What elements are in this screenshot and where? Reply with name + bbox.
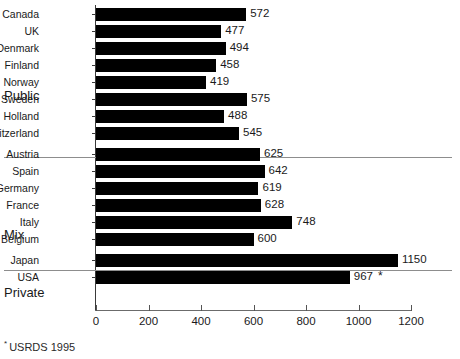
category-label-japan: Japan bbox=[0, 252, 43, 269]
bar-switzerland bbox=[96, 127, 239, 140]
bar-row: Holland488 bbox=[96, 108, 411, 125]
bar-row: Germany619 bbox=[96, 180, 411, 197]
bar-value-germany: 619 bbox=[258, 179, 281, 196]
x-tick-label-1000: 1000 bbox=[346, 315, 372, 328]
x-tick-mark bbox=[96, 305, 97, 311]
bar-annotation-marker: * bbox=[373, 269, 383, 283]
bar-finland bbox=[96, 59, 216, 72]
bar-canada bbox=[96, 8, 246, 21]
category-label-canada: Canada bbox=[0, 6, 43, 23]
bar-row: Sweden575 bbox=[96, 91, 411, 108]
bar-row: Switzerland545 bbox=[96, 125, 411, 142]
x-tick-label-400: 400 bbox=[191, 315, 210, 328]
bar-denmark bbox=[96, 42, 226, 55]
bar-row: Canada572 bbox=[96, 6, 411, 23]
group-label-private: Private bbox=[4, 286, 78, 300]
bar-value-holland: 488 bbox=[224, 107, 247, 124]
category-label-france: France bbox=[0, 197, 43, 214]
bar-row: USA967* bbox=[96, 269, 411, 286]
bar-row: Denmark494 bbox=[96, 40, 411, 57]
bar-uk bbox=[96, 25, 221, 38]
bar-value-canada: 572 bbox=[246, 5, 269, 22]
bar-value-denmark: 494 bbox=[226, 39, 249, 56]
x-tick-mark bbox=[149, 305, 150, 311]
category-label-austria: Austria bbox=[0, 146, 43, 163]
x-tick-mark bbox=[359, 305, 360, 311]
bar-value-japan: 1150 bbox=[398, 251, 427, 268]
bar-row: Austria625 bbox=[96, 146, 411, 163]
bar-row: UK477 bbox=[96, 23, 411, 40]
bar-value-france: 628 bbox=[261, 196, 284, 213]
category-label-norway: Norway bbox=[0, 74, 43, 91]
bar-row: Finland458 bbox=[96, 57, 411, 74]
bar-row: Spain642 bbox=[96, 163, 411, 180]
bar-france bbox=[96, 199, 261, 212]
bar-usa bbox=[96, 271, 350, 284]
category-label-denmark: Denmark bbox=[0, 40, 43, 57]
bar-chart: Public Mix Private Canada572UK477Denmark… bbox=[0, 0, 460, 359]
x-tick-label-0: 0 bbox=[93, 315, 99, 328]
bar-row: Norway419 bbox=[96, 74, 411, 91]
category-label-spain: Spain bbox=[0, 163, 43, 180]
bar-italy bbox=[96, 216, 292, 229]
bar-value-spain: 642 bbox=[265, 162, 288, 179]
bar-austria bbox=[96, 148, 260, 161]
bar-holland bbox=[96, 110, 224, 123]
x-tick-label-800: 800 bbox=[296, 315, 315, 328]
bar-value-finland: 458 bbox=[216, 56, 239, 73]
bar-sweden bbox=[96, 93, 247, 106]
bar-value-uk: 477 bbox=[221, 22, 244, 39]
category-label-sweden: Sweden bbox=[0, 91, 43, 108]
bar-belgium bbox=[96, 233, 254, 246]
bar-value-italy: 748 bbox=[292, 213, 315, 230]
category-label-switzerland: Switzerland bbox=[0, 125, 43, 142]
category-label-finland: Finland bbox=[0, 57, 43, 74]
bar-spain bbox=[96, 165, 265, 178]
footnote: *USRDS 1995 bbox=[4, 337, 75, 354]
bar-row: Japan1150 bbox=[96, 252, 411, 269]
bar-germany bbox=[96, 182, 258, 195]
plot-area: Canada572UK477Denmark494Finland458Norway… bbox=[96, 6, 411, 309]
x-tick-mark bbox=[254, 305, 255, 311]
bar-value-usa: 967* bbox=[350, 268, 383, 285]
category-label-italy: Italy bbox=[0, 214, 43, 231]
footnote-text: USRDS 1995 bbox=[9, 341, 75, 353]
x-tick-mark bbox=[201, 305, 202, 311]
category-label-germany: Germany bbox=[0, 180, 43, 197]
bar-row: France628 bbox=[96, 197, 411, 214]
bar-value-belgium: 600 bbox=[254, 230, 277, 247]
x-tick-label-1200: 1200 bbox=[398, 315, 424, 328]
bar-value-sweden: 575 bbox=[247, 90, 270, 107]
bar-value-austria: 625 bbox=[260, 145, 283, 162]
bar-norway bbox=[96, 76, 206, 89]
bar-japan bbox=[96, 254, 398, 267]
x-tick-label-600: 600 bbox=[244, 315, 263, 328]
x-tick-label-200: 200 bbox=[139, 315, 158, 328]
category-label-usa: USA bbox=[0, 269, 43, 286]
bar-row: Belgium600 bbox=[96, 231, 411, 248]
x-tick-mark bbox=[306, 305, 307, 311]
category-label-holland: Holland bbox=[0, 108, 43, 125]
category-label-uk: UK bbox=[0, 23, 43, 40]
category-label-belgium: Belgium bbox=[0, 231, 43, 248]
x-tick-mark bbox=[411, 305, 412, 311]
bar-row: Italy748 bbox=[96, 214, 411, 231]
bar-value-switzerland: 545 bbox=[239, 124, 262, 141]
bar-value-norway: 419 bbox=[206, 73, 229, 90]
